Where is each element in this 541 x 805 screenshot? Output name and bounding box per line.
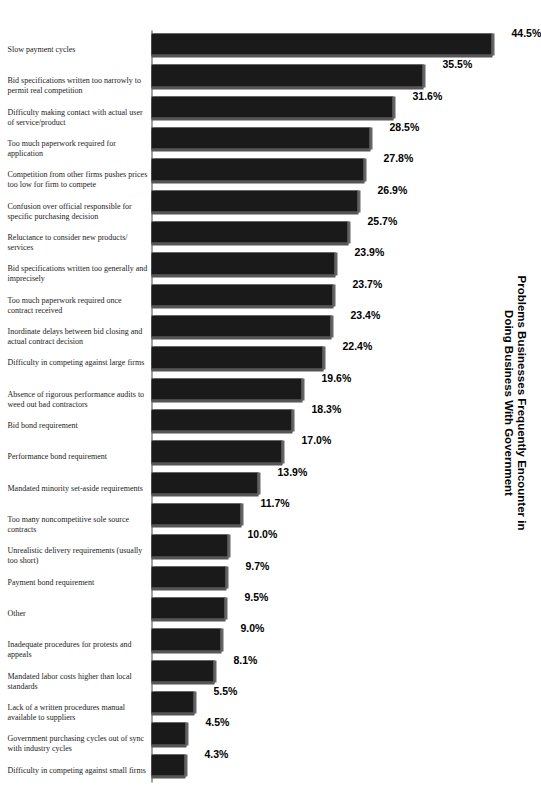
- category-label: Performance bond requirement: [7, 451, 147, 461]
- bar-value-label: 11.7%: [260, 496, 289, 508]
- bar[interactable]: [151, 566, 226, 588]
- bar-slot: 9.7%: [151, 563, 491, 594]
- category-label-slot: Mandated minority set-aside requirements: [2, 469, 147, 500]
- category-label-slot: Confusion over official responsible for …: [2, 187, 147, 218]
- bar-value-label: 9.7%: [245, 559, 269, 571]
- bar[interactable]: [151, 754, 185, 776]
- category-label-slot: Payment bond requirement: [2, 563, 147, 594]
- bar-slot: 9.5%: [151, 594, 491, 625]
- bar[interactable]: [151, 660, 214, 682]
- bar-value-label: 26.9%: [377, 183, 407, 195]
- bar-value-label: 35.5%: [442, 57, 472, 69]
- category-label: Absence of rigorous performance audits t…: [7, 389, 147, 408]
- category-label-slot: Too much paperwork required once contrac…: [2, 281, 147, 312]
- category-label: Mandated labor costs higher than local s…: [7, 671, 147, 690]
- bar-value-label: 25.7%: [367, 214, 397, 226]
- category-axis-labels: Slow payment cyclesBid specifications wr…: [2, 30, 147, 782]
- bar-value-label: 13.9%: [277, 465, 307, 477]
- bar-value-label: 8.1%: [233, 653, 257, 665]
- bar-slot: 19.6%: [151, 375, 491, 406]
- bar[interactable]: [151, 597, 225, 619]
- category-label-slot: Reluctance to consider new products/ ser…: [2, 218, 147, 249]
- category-label: Too much paperwork required once contrac…: [7, 295, 147, 314]
- category-label: Government purchasing cycles out of sync…: [7, 733, 147, 752]
- category-label: Inadequate procedures for protests and a…: [7, 639, 147, 658]
- bar-slot: 23.9%: [151, 249, 491, 280]
- category-label: Bid specifications written too narrowly …: [7, 75, 147, 94]
- bar-slot: 17.0%: [151, 437, 491, 468]
- bar-value-label: 9.5%: [244, 590, 268, 602]
- bar-slot: 11.7%: [151, 500, 491, 531]
- bar[interactable]: [151, 64, 423, 86]
- bar[interactable]: [151, 378, 302, 400]
- bar[interactable]: [151, 409, 292, 431]
- category-label-slot: Unrealistic delivery requirements (usual…: [2, 531, 147, 562]
- category-label-slot: Difficulty in competing against small fi…: [2, 751, 147, 782]
- category-label-slot: Absence of rigorous performance audits t…: [2, 375, 147, 406]
- category-label: Reluctance to consider new products/ ser…: [7, 232, 147, 251]
- category-label: Too many noncompetitive sole source cont…: [7, 514, 147, 533]
- bar-value-label: 9.0%: [240, 621, 264, 633]
- bar-slot: 22.4%: [151, 343, 491, 374]
- bar[interactable]: [151, 158, 364, 180]
- bar-value-label: 4.5%: [205, 715, 229, 727]
- bar-slot: 4.5%: [151, 719, 491, 750]
- category-label: Competition from other firms pushes pric…: [7, 169, 147, 188]
- bar[interactable]: [151, 628, 221, 650]
- bar[interactable]: [151, 346, 323, 368]
- category-label: Other: [7, 608, 147, 618]
- bar[interactable]: [151, 127, 370, 149]
- bar[interactable]: [151, 315, 331, 337]
- category-label-slot: Too many noncompetitive sole source cont…: [2, 500, 147, 531]
- bar-value-label: 23.7%: [352, 277, 382, 289]
- category-label-slot: Bid bond requirement: [2, 406, 147, 437]
- bar-slot: 23.4%: [151, 312, 491, 343]
- bar-value-label: 23.4%: [350, 308, 380, 320]
- bar-slot: 4.3%: [151, 751, 491, 782]
- category-label-slot: Performance bond requirement: [2, 437, 147, 468]
- bar-value-label: 19.6%: [321, 371, 351, 383]
- bar-value-label: 23.9%: [354, 245, 384, 257]
- category-label-slot: Bid specifications written too generally…: [2, 249, 147, 280]
- bar-value-label: 22.4%: [342, 339, 372, 351]
- bar-value-label: 17.0%: [301, 433, 331, 445]
- bar-value-label: 44.5%: [511, 26, 541, 38]
- bar[interactable]: [151, 722, 186, 744]
- bar-slot: 27.8%: [151, 155, 491, 186]
- bar-value-label: 27.8%: [383, 151, 413, 163]
- bar-slot: 13.9%: [151, 469, 491, 500]
- bar[interactable]: [151, 221, 348, 243]
- bar[interactable]: [151, 440, 282, 462]
- bar-value-label: 28.5%: [389, 120, 419, 132]
- bar-value-label: 10.0%: [247, 527, 277, 539]
- bar[interactable]: [151, 252, 335, 274]
- category-label-slot: Too much paperwork required for applicat…: [2, 124, 147, 155]
- bar[interactable]: [151, 472, 258, 494]
- bar[interactable]: [151, 691, 194, 713]
- bar[interactable]: [151, 96, 393, 118]
- bar-value-label: 18.3%: [311, 402, 341, 414]
- bar-value-label: 5.5%: [213, 684, 237, 696]
- category-label-slot: Inordinate delays between bid closing an…: [2, 312, 147, 343]
- category-label: Unrealistic delivery requirements (usual…: [7, 545, 147, 564]
- category-label: Lack of a written procedures manual avai…: [7, 702, 147, 721]
- bar-slot: 5.5%: [151, 688, 491, 719]
- category-label-slot: Competition from other firms pushes pric…: [2, 155, 147, 186]
- bar[interactable]: [151, 534, 228, 556]
- bar[interactable]: [151, 33, 492, 55]
- bar-slot: 10.0%: [151, 531, 491, 562]
- bar-slot: 35.5%: [151, 61, 491, 92]
- bar-slot: 31.6%: [151, 93, 491, 124]
- category-label-slot: Mandated labor costs higher than local s…: [2, 657, 147, 688]
- bar[interactable]: [151, 503, 241, 525]
- bar-slot: 26.9%: [151, 187, 491, 218]
- bar-value-label: 4.3%: [204, 747, 228, 759]
- category-label-slot: Lack of a written procedures manual avai…: [2, 688, 147, 719]
- category-label-slot: Difficulty in competing against large fi…: [2, 343, 147, 374]
- bar[interactable]: [151, 284, 333, 306]
- bar[interactable]: [151, 190, 358, 212]
- category-label: Slow payment cycles: [7, 44, 147, 54]
- category-label: Confusion over official responsible for …: [7, 201, 147, 220]
- bar-slot: 25.7%: [151, 218, 491, 249]
